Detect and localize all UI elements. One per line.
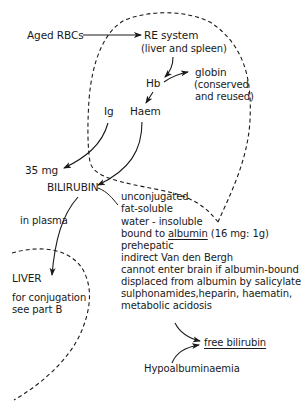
node-hypoalbuminaemia: Hypoalbuminaemia: [144, 363, 240, 375]
prop-displaced: displaced from albumin by salicylates,: [121, 276, 301, 288]
arrow-ig-to-amount: [64, 123, 108, 168]
node-globin-note-1: (conserved: [194, 79, 249, 91]
prop-cannot-enter-brain: cannot enter brain if albumin-bound: [121, 264, 299, 276]
prop-drugs: sulphonamides,heparin, haematin,: [121, 288, 292, 300]
node-liver-note-2: see part B: [12, 304, 62, 316]
prop-ratio: (16 mg: 1g): [208, 228, 269, 239]
node-aged-rbcs: Aged RBCs: [27, 29, 84, 41]
node-haem: Haem: [130, 105, 161, 117]
arrow-re-to-hb: [165, 57, 173, 77]
node-liver: LIVER: [12, 272, 42, 284]
prop-indirect-van-den-bergh: indirect Van den Bergh: [121, 252, 233, 264]
prop-prehepatic: prehepatic: [121, 240, 174, 252]
label-in-plasma: in plasma: [20, 215, 68, 227]
prop-albumin: albumin: [168, 228, 208, 239]
node-liver-note-1: for conjugation: [12, 292, 86, 304]
arrow-acidosis-to-free: [175, 323, 200, 341]
prop-unconjugated: unconjugated: [121, 191, 188, 203]
prop-fat-soluble: fat-soluble: [121, 203, 173, 215]
prop-metabolic-acidosis: metabolic acidosis: [121, 300, 212, 312]
arrow-hb-to-haem: [146, 92, 153, 103]
prop-water-insoluble: water - insoluble: [121, 216, 203, 228]
bilirubin-diagram: Aged RBCs RE system (liver and spleen) H…: [0, 0, 301, 409]
connector-bilirubin-to-properties: [98, 188, 118, 205]
arrow-bilirubin-to-liver: [52, 197, 78, 275]
node-hb: Hb: [146, 77, 160, 89]
prop-bound-to-albumin: bound to albumin (16 mg: 1g): [121, 228, 269, 240]
node-globin-note-2: and reused): [195, 91, 254, 103]
node-re-system-sub: (liver and spleen): [141, 43, 227, 55]
node-free-bilirubin: free bilirubin: [204, 337, 266, 349]
node-re-system: RE system: [144, 29, 198, 41]
prop-bound-pre: bound to: [121, 228, 168, 239]
arrow-hypo-to-free: [172, 345, 199, 363]
node-amount: 35 mg: [25, 164, 58, 176]
node-globin: globin: [195, 66, 227, 78]
node-ig: Ig: [104, 105, 114, 117]
node-bilirubin: BILIRUBIN: [47, 181, 98, 193]
